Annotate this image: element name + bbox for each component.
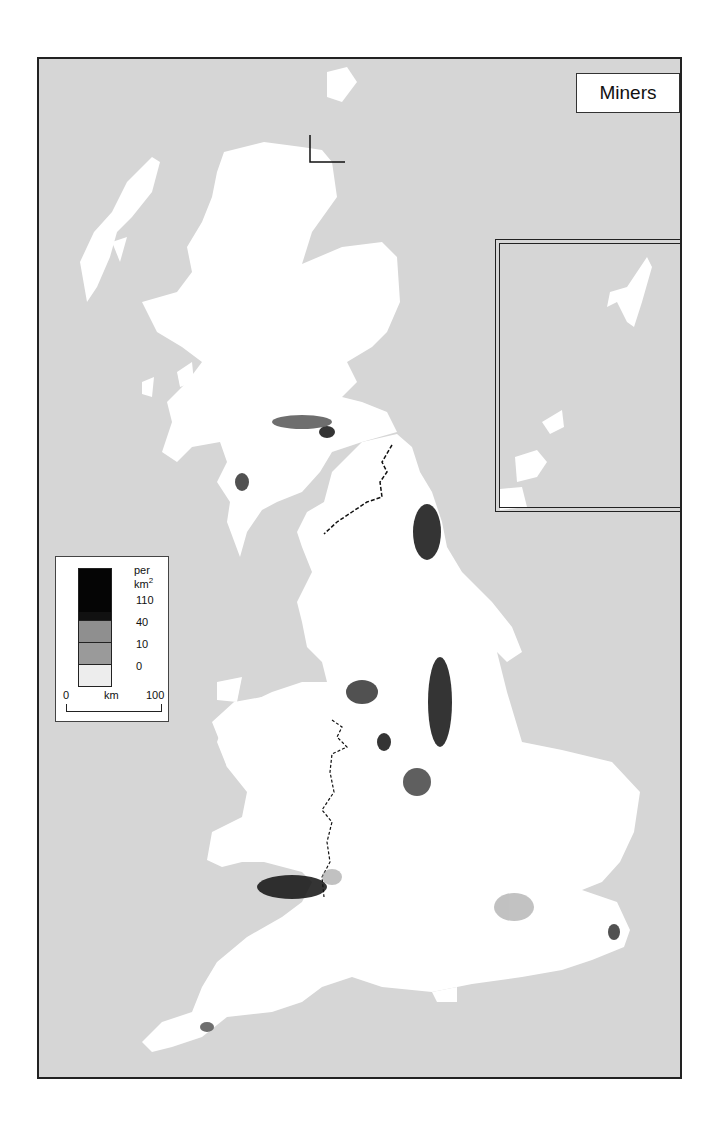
- map-frame: Miners per km2 110 40 10 0 0 km 100: [37, 57, 682, 1079]
- land-hebrides: [80, 157, 160, 302]
- inset-inner-border: [499, 243, 682, 508]
- legend-swatch-110: [78, 568, 112, 612]
- legend-label-10: 10: [136, 638, 148, 650]
- map-title: Miners: [576, 73, 680, 113]
- legend: per km2 110 40 10 0 0 km 100: [55, 556, 169, 722]
- scale-unit-label: km: [104, 689, 119, 701]
- scale-bar: [66, 704, 162, 712]
- legend-label-110: 110: [136, 594, 154, 606]
- legend-swatch-none: [78, 664, 112, 687]
- legend-label-40: 40: [136, 616, 148, 628]
- legend-label-0: 0: [136, 660, 142, 672]
- scale-max-label: 100: [146, 689, 164, 701]
- legend-swatch-10: [78, 620, 112, 642]
- land-england: [142, 434, 640, 1052]
- inset-box: [495, 239, 682, 512]
- legend-unit: per km2: [134, 564, 168, 590]
- scale-min-label: 0: [63, 689, 69, 701]
- legend-swatch-40: [78, 612, 112, 620]
- legend-swatch-0: [78, 642, 112, 664]
